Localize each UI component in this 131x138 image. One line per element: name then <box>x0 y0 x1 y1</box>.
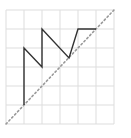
path-diagram <box>0 0 131 138</box>
